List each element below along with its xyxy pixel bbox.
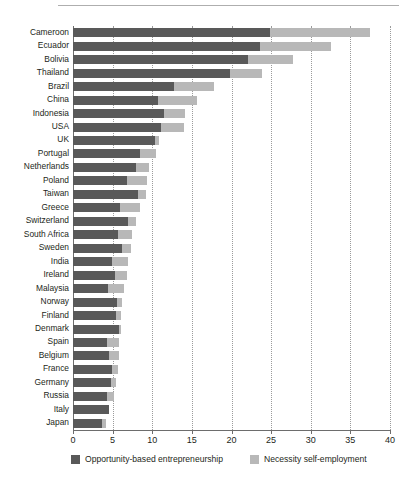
bar-segment-necessity [136,163,149,172]
bar-segment-opportunity [73,42,260,51]
bar-segment-opportunity [73,392,107,401]
x-axis-tick [350,431,351,434]
y-axis-label: India [0,257,69,266]
bar-segment-necessity [122,244,131,253]
bar-segment-opportunity [73,217,128,226]
y-axis-label: France [0,364,69,373]
bar-segment-necessity [119,325,121,334]
bar-row [73,378,390,387]
bar-row [73,365,390,374]
bar-row [73,338,390,347]
bar-segment-necessity [117,298,122,307]
y-axis-label: Belgium [0,351,69,360]
bar-segment-opportunity [73,123,161,132]
chart-legend: Opportunity-based entrepreneurship Neces… [0,452,403,468]
bar-segment-necessity [120,203,141,212]
bar-segment-opportunity [73,378,111,387]
bar-row [73,203,390,212]
legend-label-necessity: Necessity self-employment [264,454,367,464]
bar-segment-opportunity [73,405,109,414]
bar-segment-opportunity [73,230,118,239]
bar-row [73,284,390,293]
x-axis-tick [152,431,153,434]
bar-segment-necessity [111,378,116,387]
bar-row [73,190,390,199]
y-axis-label: Norway [0,297,69,306]
x-axis-tick-label: 25 [256,435,286,446]
bar-segment-necessity [260,42,331,51]
y-axis-label: Portugal [0,149,69,158]
x-axis-tick-label: 20 [217,435,247,446]
legend-label-opportunity: Opportunity-based entrepreneurship [85,454,223,464]
y-axis-label: Poland [0,176,69,185]
bar-segment-opportunity [73,190,138,199]
bar-segment-necessity [161,123,184,132]
x-axis-tick [390,431,391,434]
y-axis-label: Spain [0,337,69,346]
bar-segment-necessity [270,28,370,37]
y-axis-label: USA [0,122,69,131]
y-axis-label: Taiwan [0,189,69,198]
bar-segment-opportunity [73,311,116,320]
bar-rows [73,26,390,430]
bar-segment-necessity [140,149,156,158]
bar-row [73,230,390,239]
legend-item-opportunity: Opportunity-based entrepreneurship [71,452,223,466]
bar-segment-necessity [102,419,107,428]
bar-segment-opportunity [73,244,122,253]
bar-segment-opportunity [73,325,119,334]
bar-segment-necessity [109,351,119,360]
bar-segment-necessity [112,365,118,374]
bar-segment-opportunity [73,365,112,374]
header-divider [58,5,399,6]
bar-segment-necessity [107,338,119,347]
bar-segment-opportunity [73,55,248,64]
bar-row [73,298,390,307]
bar-segment-opportunity [73,109,164,118]
x-axis-tick [113,431,114,434]
y-axis-label: Thailand [0,68,69,77]
bar-segment-necessity [158,96,197,105]
bar-row [73,136,390,145]
bar-row [73,55,390,64]
bar-segment-opportunity [73,338,107,347]
bar-row [73,325,390,334]
bar-segment-necessity [112,257,129,266]
bar-row [73,163,390,172]
y-axis-label: South Africa [0,230,69,239]
bar-row [73,244,390,253]
bar-segment-necessity [108,284,124,293]
bar-row [73,405,390,414]
bar-row [73,42,390,51]
bar-segment-necessity [155,136,159,145]
bar-segment-opportunity [73,82,174,91]
bar-segment-necessity [107,392,114,401]
y-axis-label: Ecuador [0,41,69,50]
bar-segment-opportunity [73,419,102,428]
y-axis-label: Cameroon [0,28,69,37]
y-axis-label: Ireland [0,270,69,279]
bar-segment-necessity [115,271,127,280]
y-axis-label: Italy [0,405,69,414]
bar-segment-necessity [118,230,132,239]
y-axis-label: Denmark [0,324,69,333]
bar-segment-opportunity [73,176,127,185]
bar-row [73,176,390,185]
x-axis-tick [311,431,312,434]
x-axis-tick-label: 35 [335,435,365,446]
y-axis-label: Greece [0,203,69,212]
legend-swatch-necessity [250,455,259,464]
bar-row [73,419,390,428]
y-axis-label: Finland [0,311,69,320]
bar-segment-opportunity [73,351,109,360]
x-axis-tick-label: 40 [375,435,403,446]
x-axis-tick [192,431,193,434]
y-axis-label: Netherlands [0,162,69,171]
bar-row [73,351,390,360]
y-axis-label: Malaysia [0,284,69,293]
bar-segment-opportunity [73,298,117,307]
bar-segment-necessity [128,217,135,226]
bar-row [73,311,390,320]
y-axis-label: Sweden [0,243,69,252]
bar-row [73,257,390,266]
